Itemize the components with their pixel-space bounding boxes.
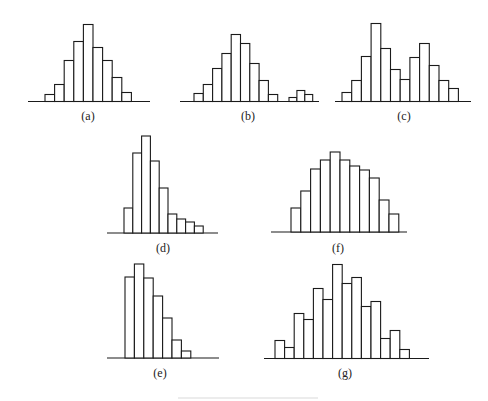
bar-c-2 xyxy=(352,81,362,102)
histogram-figure: (a) (b) (c) (d) (e) (f) (g) xyxy=(0,0,488,401)
bar-d-9 xyxy=(194,226,203,233)
label-g: (g) xyxy=(338,366,352,380)
bar-d-7 xyxy=(177,219,186,233)
bar-g-5 xyxy=(313,289,323,359)
histogram-c xyxy=(335,24,471,102)
histogram-g xyxy=(264,265,429,359)
bar-c-10 xyxy=(429,66,439,102)
bar-a-6 xyxy=(93,48,103,102)
figure-caption-faint xyxy=(178,397,318,399)
bar-e-1 xyxy=(125,277,134,358)
island-bar-b-3 xyxy=(305,95,313,102)
bar-f-7 xyxy=(350,166,360,232)
histogram-e xyxy=(107,264,219,358)
histogram-b xyxy=(180,35,319,102)
bar-g-10 xyxy=(361,307,371,359)
bar-e-7 xyxy=(181,351,190,358)
histogram-a xyxy=(28,25,150,102)
bar-c-6 xyxy=(391,70,401,102)
bar-f-4 xyxy=(320,160,330,232)
bar-f-10 xyxy=(379,200,389,232)
bar-a-1 xyxy=(45,95,55,102)
bar-a-8 xyxy=(112,78,122,102)
bar-c-1 xyxy=(342,93,352,102)
bar-g-12 xyxy=(381,339,391,359)
bar-d-8 xyxy=(186,222,195,233)
bar-f-3 xyxy=(311,169,321,232)
bar-f-1 xyxy=(291,208,301,232)
bar-c-9 xyxy=(420,44,430,102)
bar-b-7 xyxy=(250,64,259,102)
bar-g-11 xyxy=(371,302,381,359)
bar-d-5 xyxy=(159,188,168,233)
bar-c-5 xyxy=(381,49,391,102)
label-c: (c) xyxy=(397,109,410,123)
bar-g-6 xyxy=(323,300,333,359)
bar-f-2 xyxy=(301,191,311,232)
bar-b-2 xyxy=(203,85,212,102)
bar-b-4 xyxy=(222,54,231,102)
bar-f-6 xyxy=(340,160,350,232)
bar-d-2 xyxy=(133,153,142,233)
bar-b-1 xyxy=(194,94,203,102)
bar-c-7 xyxy=(400,80,410,102)
bar-e-2 xyxy=(134,264,143,358)
bar-g-13 xyxy=(390,331,400,359)
bar-b-6 xyxy=(241,44,250,102)
bar-b-9 xyxy=(268,95,277,102)
bar-g-4 xyxy=(304,320,314,359)
label-e: (e) xyxy=(153,366,166,380)
bar-d-3 xyxy=(142,136,151,233)
label-b: (b) xyxy=(241,109,255,123)
bar-e-5 xyxy=(163,318,172,358)
bar-f-8 xyxy=(360,170,370,232)
bar-b-8 xyxy=(259,81,268,102)
label-f: (f) xyxy=(332,241,344,255)
bar-a-2 xyxy=(55,85,65,102)
bar-a-9 xyxy=(122,93,132,102)
bar-e-6 xyxy=(172,340,181,358)
bar-g-1 xyxy=(275,341,285,359)
island-bar-b-2 xyxy=(297,91,305,102)
bar-e-4 xyxy=(153,296,162,358)
island-bar-b-1 xyxy=(289,98,297,102)
bar-c-12 xyxy=(449,89,459,102)
bar-e-3 xyxy=(144,278,153,358)
bar-a-7 xyxy=(103,61,113,102)
bar-f-5 xyxy=(330,152,340,232)
bar-a-4 xyxy=(74,42,84,102)
bar-d-1 xyxy=(124,208,133,233)
bar-g-7 xyxy=(333,265,343,359)
bar-g-8 xyxy=(342,284,352,359)
bar-c-11 xyxy=(439,81,449,102)
bar-b-5 xyxy=(231,35,240,102)
bar-d-4 xyxy=(150,161,159,233)
label-d: (d) xyxy=(156,241,170,255)
bar-c-3 xyxy=(361,57,371,102)
bar-g-9 xyxy=(352,278,362,359)
bar-a-5 xyxy=(83,25,93,102)
histogram-f xyxy=(271,152,407,232)
bar-c-4 xyxy=(371,24,381,102)
bar-c-8 xyxy=(410,58,420,102)
bar-g-3 xyxy=(294,314,304,359)
bar-d-6 xyxy=(168,214,177,233)
histogram-d xyxy=(107,136,218,233)
bar-g-14 xyxy=(400,350,410,359)
bar-a-3 xyxy=(64,61,74,102)
bar-b-3 xyxy=(213,69,222,102)
label-a: (a) xyxy=(81,109,94,123)
bar-f-11 xyxy=(389,214,399,232)
bar-f-9 xyxy=(369,178,379,232)
bar-g-2 xyxy=(285,348,295,359)
